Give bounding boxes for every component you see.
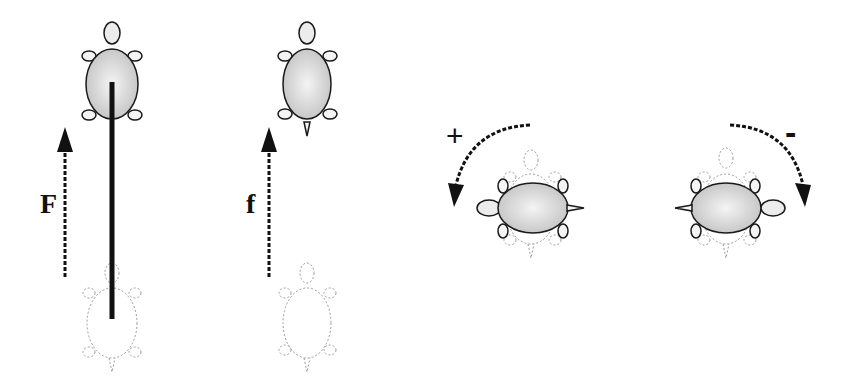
sign-label-plus: + bbox=[446, 121, 464, 151]
turtle-3 bbox=[477, 179, 584, 238]
turtle-2 bbox=[278, 22, 337, 136]
force-label-F: F bbox=[40, 190, 57, 218]
ghost-turtle-2 bbox=[279, 263, 336, 372]
turtle-motion-diagram bbox=[0, 0, 855, 387]
sign-label-minus: - bbox=[785, 115, 796, 149]
force-label-f: f bbox=[246, 190, 255, 218]
turtle-4 bbox=[675, 179, 785, 238]
force-arrow-F bbox=[57, 127, 73, 277]
force-arrow-f bbox=[261, 127, 277, 277]
